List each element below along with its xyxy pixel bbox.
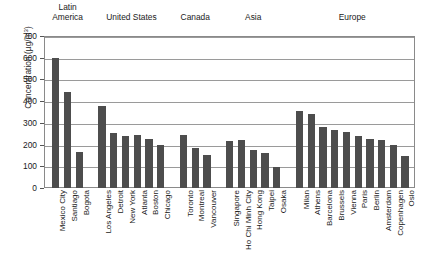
x-axis-label: Vancouver [210, 190, 218, 228]
bar [122, 136, 129, 188]
bar [401, 156, 408, 188]
bar-chart-figure: Concentration (µg/m3) Latin AmericaUnite… [0, 0, 427, 276]
bar [273, 167, 280, 188]
bar [378, 140, 385, 188]
y-axis-ticks: 0100200300400500600700 [0, 36, 44, 188]
bar [110, 133, 117, 188]
bar [145, 139, 152, 189]
bar [390, 145, 397, 188]
x-axis-label: Los Angeles [105, 190, 113, 234]
bar [261, 153, 268, 188]
bar [331, 130, 338, 188]
y-axis-title-tail: ) [24, 26, 33, 29]
bar [180, 135, 187, 188]
x-axis-label: Mexico City [59, 190, 67, 231]
x-axis-label: Ho Chi Minh City [245, 190, 253, 250]
x-axis-label: Paris [361, 190, 369, 208]
bar [98, 106, 105, 189]
x-axis-label: Toronto [187, 190, 195, 217]
y-tick-label-400: 400 [23, 97, 37, 105]
bar [238, 140, 245, 188]
group-header-row: Latin AmericaUnited StatesCanadaAsiaEuro… [44, 2, 416, 30]
bar [52, 58, 59, 188]
y-tick-label-600: 600 [23, 54, 37, 62]
x-axis-label: Copenhagen [397, 190, 405, 236]
bar [308, 114, 315, 188]
bar [64, 92, 71, 188]
y-tick-label-100: 100 [23, 162, 37, 170]
x-axis-label: New York [129, 190, 137, 224]
x-axis-label: Chicago [164, 190, 172, 219]
x-axis-label: Athens [314, 190, 322, 215]
bar [192, 148, 199, 188]
y-tick-label-300: 300 [23, 119, 37, 127]
group-header: Europe [264, 12, 427, 22]
x-axis-label: Vienna [350, 190, 358, 215]
x-axis-label: Oslo [408, 190, 416, 206]
x-axis-label: Osaka [280, 190, 288, 213]
bar [366, 139, 373, 189]
x-axis-label: Santiago [71, 190, 79, 222]
y-tick-label-500: 500 [23, 75, 37, 83]
bar [134, 135, 141, 188]
bar [76, 152, 83, 188]
y-tick-label-0: 0 [32, 184, 37, 192]
x-axis-label: Berlin [373, 190, 381, 210]
y-tick-mark-0 [40, 188, 44, 189]
y-tick-label-200: 200 [23, 140, 37, 148]
bar [343, 132, 350, 188]
x-axis-label: Barcelona [326, 190, 334, 226]
bars-layer [44, 36, 415, 188]
x-axis-label: Hong Kong [256, 190, 264, 230]
x-axis-label: Brussels [338, 190, 346, 221]
x-axis-label: Singapore [233, 190, 241, 226]
x-axis-label: Boston [152, 190, 160, 215]
bar [203, 155, 210, 188]
bar [250, 150, 257, 188]
x-axis-label: Atlanta [141, 190, 149, 215]
bar [296, 111, 303, 188]
x-axis-label: Detroit [117, 190, 125, 214]
x-axis-labels: Mexico CitySantiagoBogotaLos AngelesDetr… [44, 190, 415, 274]
bar [319, 127, 326, 188]
x-axis-label: Taipei [268, 190, 276, 211]
x-axis-label: Bogota [83, 190, 91, 215]
bar [226, 141, 233, 188]
x-axis-label: Montreal [198, 190, 206, 221]
bar [157, 145, 164, 188]
x-axis-label: Milan [303, 190, 311, 209]
y-tick-label-700: 700 [23, 32, 37, 40]
x-axis-label: Amsterdam [385, 190, 393, 231]
bar [355, 136, 362, 188]
